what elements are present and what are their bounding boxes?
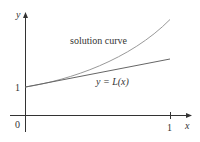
solution-curve-label: solution curve bbox=[70, 35, 127, 46]
chart: y x 0 1 1 solution curve y = L(x) bbox=[0, 0, 200, 142]
origin-label: 0 bbox=[15, 119, 20, 130]
x-axis-arrow-icon bbox=[186, 113, 192, 118]
y-tick-1-label: 1 bbox=[15, 82, 20, 93]
tangent-line-label: y = L(x) bbox=[95, 76, 130, 88]
x-axis-label: x bbox=[184, 120, 190, 131]
y-axis-label: y bbox=[15, 9, 21, 20]
y-axis-arrow-icon bbox=[23, 12, 28, 18]
x-tick-1-label: 1 bbox=[167, 122, 172, 133]
